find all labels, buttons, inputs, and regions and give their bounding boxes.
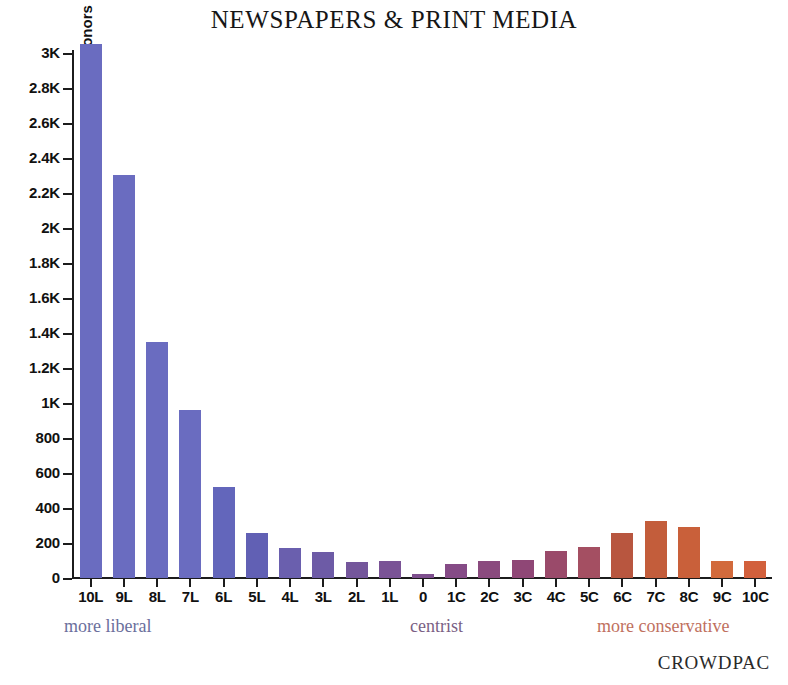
bar — [246, 533, 268, 579]
y-tick-label: 3K — [41, 44, 60, 61]
x-tick-mark — [356, 579, 358, 587]
bar — [279, 548, 301, 578]
x-tick-label: 6C — [606, 588, 639, 605]
x-tick-label: 9C — [706, 588, 739, 605]
x-tick-label: 0 — [406, 588, 439, 605]
x-tick-label: 5C — [573, 588, 606, 605]
x-tick-mark — [189, 579, 191, 587]
x-tick-mark — [488, 579, 490, 587]
x-tick-mark — [655, 579, 657, 587]
chart-title: NEWSPAPERS & PRINT MEDIA — [0, 6, 788, 34]
y-tick-label: 1K — [41, 394, 60, 411]
bar — [179, 410, 201, 578]
x-tick-mark — [455, 579, 457, 587]
y-tick-label: 2.6K — [29, 114, 60, 131]
bar — [744, 561, 766, 579]
x-tick-label: 7C — [639, 588, 672, 605]
x-tick-label: 10C — [739, 588, 772, 605]
x-tick-mark — [289, 579, 291, 587]
x-tick-label: 8L — [140, 588, 173, 605]
bar — [379, 561, 401, 579]
y-tick-mark — [63, 53, 72, 55]
y-tick-label: 2K — [41, 219, 60, 236]
x-tick-mark — [389, 579, 391, 587]
y-tick-label: 600 — [36, 464, 60, 481]
y-tick-label: 200 — [36, 534, 60, 551]
y-tick-mark — [63, 333, 72, 335]
bar — [478, 561, 500, 578]
bar — [678, 527, 700, 578]
y-tick-label: 2.8K — [29, 79, 60, 96]
y-tick-label: 1.8K — [29, 254, 60, 271]
x-tick-mark — [721, 579, 723, 587]
y-tick-label: 800 — [36, 429, 60, 446]
chart-figure: NEWSPAPERS & PRINT MEDIA donors 02004006… — [0, 0, 788, 685]
y-tick-mark — [63, 193, 72, 195]
x-tick-mark — [522, 579, 524, 587]
plot-area — [72, 44, 772, 578]
bar — [445, 564, 467, 578]
bar — [545, 551, 567, 578]
x-tick-mark — [588, 579, 590, 587]
bar — [711, 561, 733, 578]
bar — [611, 533, 633, 579]
x-tick-label: 4L — [273, 588, 306, 605]
x-tick-label: 3L — [307, 588, 340, 605]
y-tick-mark — [63, 543, 72, 545]
y-tick-label: 0 — [52, 569, 60, 586]
bar — [80, 44, 102, 578]
bar — [645, 521, 667, 578]
x-tick-mark — [156, 579, 158, 587]
x-tick-mark — [754, 579, 756, 587]
x-tick-label: 2C — [473, 588, 506, 605]
y-tick-label: 1.2K — [29, 359, 60, 376]
y-tick-mark — [63, 123, 72, 125]
x-tick-mark — [688, 579, 690, 587]
x-tick-mark — [322, 579, 324, 587]
bar — [578, 547, 600, 578]
y-tick-label: 2.2K — [29, 184, 60, 201]
x-tick-mark — [422, 579, 424, 587]
x-tick-label: 5L — [240, 588, 273, 605]
bar — [346, 562, 368, 578]
y-tick-mark — [63, 508, 72, 510]
bar — [146, 342, 168, 578]
x-tick-mark — [621, 579, 623, 587]
y-tick-mark — [63, 228, 72, 230]
bar — [213, 487, 235, 578]
bar — [113, 175, 135, 578]
y-tick-mark — [63, 263, 72, 265]
x-tick-mark — [223, 579, 225, 587]
y-tick-label: 2.4K — [29, 149, 60, 166]
x-tick-label: 3C — [506, 588, 539, 605]
y-tick-label: 1.4K — [29, 324, 60, 341]
y-tick-mark — [63, 578, 72, 580]
y-tick-mark — [63, 438, 72, 440]
axis-annotation-more-conservative: more conservative — [597, 616, 729, 637]
x-tick-mark — [123, 579, 125, 587]
x-tick-label: 4C — [539, 588, 572, 605]
y-tick-mark — [63, 473, 72, 475]
x-tick-label: 1C — [440, 588, 473, 605]
bar — [312, 552, 334, 578]
y-tick-mark — [63, 298, 72, 300]
bar — [512, 560, 534, 578]
y-tick-mark — [63, 88, 72, 90]
x-tick-mark — [90, 579, 92, 587]
x-tick-label: 6L — [207, 588, 240, 605]
x-tick-label: 10L — [74, 588, 107, 605]
y-tick-mark — [63, 403, 72, 405]
x-tick-label: 1L — [373, 588, 406, 605]
y-tick-label: 400 — [36, 499, 60, 516]
y-tick-label: 1.6K — [29, 289, 60, 306]
attribution-crowdpac: CROWDPAC — [658, 652, 770, 674]
x-tick-mark — [256, 579, 258, 587]
x-tick-mark — [555, 579, 557, 587]
y-tick-mark — [63, 158, 72, 160]
x-tick-label: 8C — [672, 588, 705, 605]
axis-annotation-centrist: centrist — [410, 616, 463, 637]
bar — [412, 574, 434, 578]
x-tick-label: 2L — [340, 588, 373, 605]
axis-annotation-more-liberal: more liberal — [64, 616, 151, 637]
x-tick-label: 9L — [107, 588, 140, 605]
